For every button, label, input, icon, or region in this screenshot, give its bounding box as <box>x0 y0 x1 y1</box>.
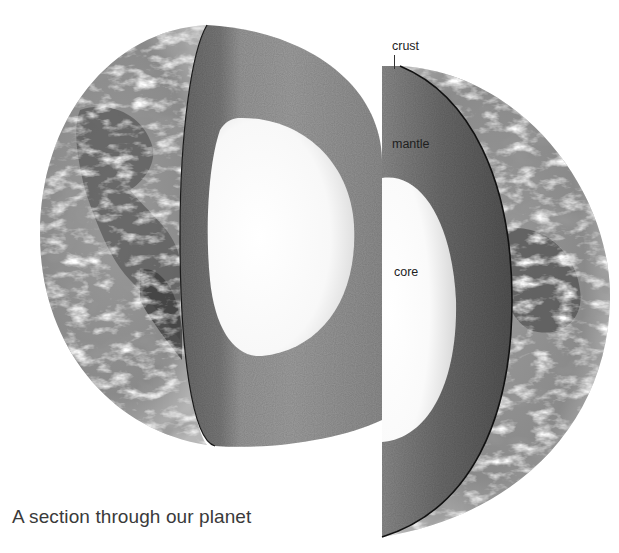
label-crust: crust <box>392 40 419 53</box>
figure-caption: A section through our planet <box>12 506 251 528</box>
earth-section-diagram <box>0 0 619 553</box>
label-core: core <box>394 266 418 279</box>
label-mantle: mantle <box>392 138 430 151</box>
left-hemisphere <box>30 20 382 450</box>
right-hemisphere <box>380 60 615 540</box>
crust-leader-line <box>394 55 395 69</box>
